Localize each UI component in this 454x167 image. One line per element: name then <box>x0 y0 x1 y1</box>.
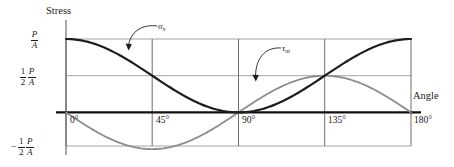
fraction-one-half-neg: 1 2 <box>18 137 25 157</box>
minus-sign: − <box>11 142 17 152</box>
stress-vs-angle-figure: Stress Angle σn τnt P A 1 2 P A − 1 2 P … <box>0 0 454 167</box>
x-tick-label-45: 45° <box>156 116 169 126</box>
tau-leader-line <box>256 48 282 76</box>
tau-nt-label: τnt <box>282 44 290 54</box>
tau-subscript: nt <box>285 48 290 54</box>
x-tick-label-0: 0° <box>70 116 79 126</box>
x-tick-label-90: 90° <box>242 116 255 126</box>
fraction-p-a-neg: P A <box>26 137 34 157</box>
x-tick-label-135: 135° <box>328 116 346 126</box>
fraction-p-a-half: P A <box>28 67 36 87</box>
sigma-subscript: n <box>162 26 165 32</box>
x-tick-label-180: 180° <box>414 116 432 126</box>
fraction-p-a: P A <box>31 30 39 50</box>
tau-leader-arrowhead <box>253 75 259 82</box>
sigma-n-label: σn <box>158 22 166 32</box>
y-tick-label-half-p-over-a: 1 2 P A <box>19 67 36 87</box>
y-tick-label-p-over-a: P A <box>30 30 39 50</box>
y-tick-label-neg-half-p-over-a: − 1 2 P A <box>11 137 34 157</box>
x-axis-title: Angle <box>413 91 439 102</box>
y-axis-title: Stress <box>46 6 71 17</box>
plot-canvas <box>0 0 454 167</box>
sigma-leader-line <box>129 26 158 45</box>
fraction-one-half: 1 2 <box>20 67 27 87</box>
sigma-leader-arrowhead <box>126 44 132 51</box>
